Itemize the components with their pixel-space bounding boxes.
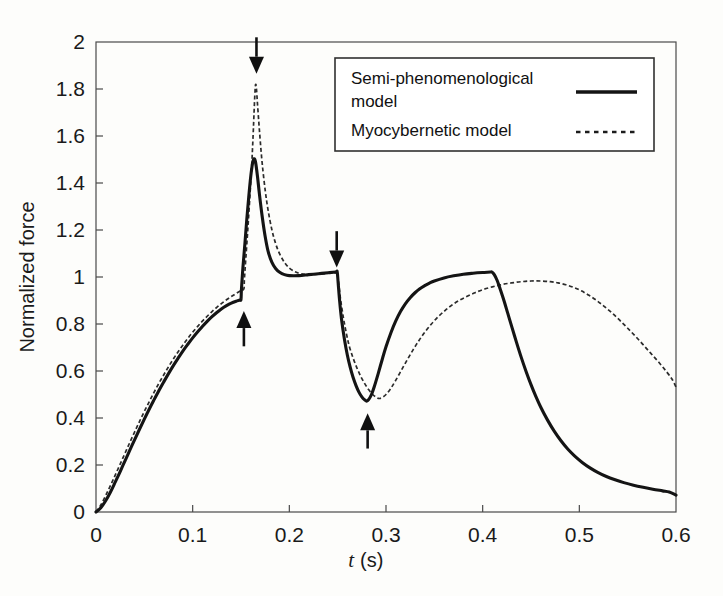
arrow-2 [236,311,251,346]
figure-container: 00.10.20.30.40.50.6 00.20.40.60.811.21.4… [0,0,723,596]
y-axis-title: Normalized force [16,201,38,352]
arrow-head-1 [236,311,251,328]
y-tick-label-1: 0.2 [56,453,85,476]
y-tick-label-3: 0.6 [56,359,85,382]
x-axis-ticks [193,505,580,512]
x-tick-label-6: 0.6 [661,523,690,546]
legend: Semi-phenomenological model Myocyberneti… [335,58,654,151]
x-axis-title: t (s) [348,548,383,572]
y-tick-label-6: 1.2 [56,218,85,241]
y-tick-label-5: 1 [73,265,85,288]
y-tick-label-10: 2 [73,30,85,53]
arrow-3 [329,231,344,267]
legend-label-0-line1: Semi-phenomenological [351,69,533,88]
y-tick-label-2: 0.4 [56,406,86,429]
x-axis-title-symbol: t [348,548,355,572]
x-tick-label-0: 0 [90,523,102,546]
arrow-head-2 [329,251,344,268]
legend-label-1: Myocybernetic model [351,121,512,140]
x-tick-label-4: 0.4 [468,523,498,546]
y-tick-label-7: 1.4 [56,171,86,194]
x-tick-label-5: 0.5 [565,523,594,546]
series-semi-phenomenological-model [96,159,676,512]
x-tick-label-3: 0.3 [371,523,400,546]
arrow-head-0 [249,57,264,74]
y-axis-tick-labels: 00.20.40.60.811.21.41.61.82 [56,30,86,523]
x-axis-title-unit: (s) [360,549,383,571]
y-tick-label-4: 0.8 [56,312,85,335]
x-tick-label-1: 0.1 [178,523,207,546]
chart-canvas: 00.10.20.30.40.50.6 00.20.40.60.811.21.4… [0,0,723,596]
arrow-4 [360,413,375,448]
arrow-1 [249,37,264,73]
arrow-head-3 [360,413,375,430]
x-axis-tick-labels: 00.10.20.30.40.50.6 [90,523,690,546]
y-tick-label-8: 1.6 [56,124,85,147]
y-tick-label-0: 0 [73,500,85,523]
y-axis-ticks [96,89,103,465]
x-tick-label-2: 0.2 [275,523,304,546]
y-tick-label-9: 1.8 [56,77,85,100]
legend-label-0-line2: model [351,92,397,111]
